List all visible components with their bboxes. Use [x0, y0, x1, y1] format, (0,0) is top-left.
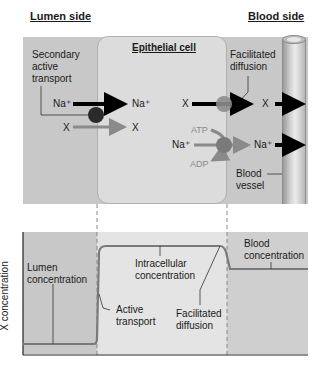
- label-line: Intracellular: [135, 258, 195, 270]
- x-lumen-label: X: [63, 122, 70, 134]
- facilitated-diffusion-bottom-label: Facilitated diffusion: [176, 308, 222, 332]
- blood-vessel-label: Blood vessel: [236, 168, 264, 192]
- label-line: transport: [116, 316, 155, 328]
- na-pump-out-label: Na⁺: [254, 139, 272, 151]
- x-intracellular-label: X: [182, 98, 189, 110]
- x-interstitial-label: X: [262, 98, 269, 110]
- atp-label: ATP: [191, 124, 208, 136]
- label-line: Facilitated: [176, 308, 222, 320]
- label-line: vessel: [236, 180, 264, 192]
- facilitated-diffusion-label: Facilitated diffusion: [230, 49, 276, 73]
- label-line: Secondary: [32, 49, 80, 61]
- label-line: Lumen: [27, 262, 87, 274]
- label-line: concentration: [135, 270, 195, 282]
- label-line: Blood: [244, 238, 304, 250]
- x-cell-label: X: [132, 122, 139, 134]
- label-line: active: [32, 61, 80, 73]
- adp-label: ADP: [190, 158, 209, 170]
- intracellular-concentration-label: Intracellular concentration: [135, 258, 195, 282]
- label-line: transport: [32, 73, 80, 85]
- label-line: Blood: [236, 168, 264, 180]
- label-line: diffusion: [230, 61, 276, 73]
- na-cell-label: Na⁺: [132, 98, 150, 110]
- blood-concentration-label: Blood concentration: [244, 238, 304, 262]
- y-axis-label: X concentration: [0, 261, 11, 331]
- active-transport-label: Active transport: [116, 304, 155, 328]
- label-line: concentration: [27, 274, 87, 286]
- label-line: Facilitated: [230, 49, 276, 61]
- na-lumen-label: Na⁺: [53, 98, 71, 110]
- lumen-concentration-label: Lumen concentration: [27, 262, 87, 286]
- secondary-active-transport-label: Secondary active transport: [32, 49, 80, 85]
- label-line: diffusion: [176, 320, 222, 332]
- na-pump-in-label: Na⁺: [172, 139, 190, 151]
- label-line: concentration: [244, 250, 304, 262]
- label-line: Active: [116, 304, 155, 316]
